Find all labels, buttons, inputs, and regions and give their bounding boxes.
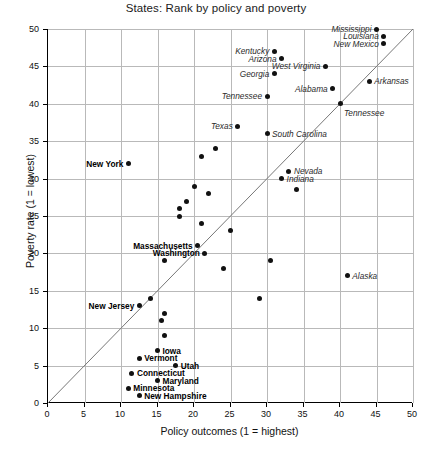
x-axis-label: Policy outcomes (1 = highest) [47,425,412,437]
data-point-new-hampshire[interactable] [137,393,142,398]
chart-figure: States: Rank by policy and poverty Missi… [0,0,432,451]
data-point-alabama[interactable] [330,86,335,91]
data-point[interactable] [228,228,233,233]
data-point-alaska[interactable] [345,273,350,278]
point-label-washington: Washington [153,249,200,257]
gridline-horizontal [48,366,413,367]
y-axis-tick [43,29,47,30]
y-axis-tick [43,104,47,105]
data-point[interactable] [221,266,226,271]
y-axis-tick [43,291,47,292]
y-axis-label: Poverty rate (1 = lowest) [24,91,36,331]
y-axis-tick [43,179,47,180]
data-point-georgia[interactable] [272,71,277,76]
data-point-south-carolina[interactable] [265,131,270,136]
data-point[interactable] [199,154,204,159]
data-point-louisiana[interactable] [381,34,386,39]
point-label-georgia: Georgia [240,70,270,78]
data-point-texas[interactable] [235,124,240,129]
y-axis-tick [43,216,47,217]
gridline-horizontal [48,179,413,180]
point-label-alaska: Alaska [352,272,377,280]
data-point-tennessee[interactable] [265,94,270,99]
point-label-texas: Texas [211,122,233,130]
point-label-vermont: Vermont [144,354,177,362]
data-point-new-york[interactable] [126,161,131,166]
y-axis-tick [43,328,47,329]
x-axis-tick [266,403,267,407]
x-axis-tick-label: 40 [334,409,344,419]
x-axis-tick-label: 25 [224,409,234,419]
data-point[interactable] [213,146,218,151]
data-point-vermont[interactable] [137,356,142,361]
x-axis-tick-label: 10 [115,409,125,419]
data-point[interactable] [177,214,182,219]
point-label-west-virginia: West Virginia [272,62,321,70]
data-point-washington[interactable] [202,251,207,256]
data-point[interactable] [199,221,204,226]
y-axis-tick [43,66,47,67]
data-point[interactable] [268,258,273,263]
x-axis-tick [303,403,304,407]
x-axis-tick-label: 45 [370,409,380,419]
data-point-minnesota[interactable] [126,386,131,391]
y-axis-tick-label: 50 [17,24,39,34]
x-axis-tick-label: 0 [44,409,49,419]
data-point-new-mexico[interactable] [381,41,386,46]
x-axis-tick [84,403,85,407]
data-point-arkansas[interactable] [367,79,372,84]
point-label-alabama: Alabama [295,85,328,93]
gridline-horizontal [48,291,413,292]
data-point-tennessee[interactable] [338,101,343,106]
x-axis-tick [120,403,121,407]
x-axis-tick [412,403,413,407]
x-axis-tick [376,403,377,407]
data-point[interactable] [159,318,164,323]
x-axis-tick [47,403,48,407]
data-point[interactable] [206,191,211,196]
point-label-arkansas: Arkansas [374,77,409,85]
gridline-horizontal [48,104,413,105]
data-point[interactable] [162,258,167,263]
data-point-new-jersey[interactable] [137,303,142,308]
y-axis-tick [43,141,47,142]
x-axis-tick-label: 20 [188,409,198,419]
data-point[interactable] [148,296,153,301]
data-point-connecticut[interactable] [129,371,134,376]
x-axis-tick-label: 15 [151,409,161,419]
data-point[interactable] [162,311,167,316]
data-point[interactable] [294,187,299,192]
y-axis-tick [43,253,47,254]
y-axis-tick-label: 5 [17,361,39,371]
y-axis-tick [43,403,47,404]
point-label-new-mexico: New Mexico [334,40,379,48]
x-axis-tick-label: 50 [407,409,417,419]
data-point-indiana[interactable] [279,176,284,181]
data-point[interactable] [257,296,262,301]
point-label-new-jersey: New Jersey [89,302,135,310]
data-point[interactable] [177,206,182,211]
data-point[interactable] [184,199,189,204]
y-axis-tick [43,366,47,367]
x-axis-tick [193,403,194,407]
point-label-new-hampshire: New Hampshire [144,391,206,399]
gridline-horizontal [48,216,413,217]
gridline-horizontal [48,66,413,67]
chart-title: States: Rank by policy and poverty [0,2,432,14]
x-axis-tick-label: 5 [81,409,86,419]
x-axis-tick-label: 35 [297,409,307,419]
data-point[interactable] [192,184,197,189]
data-point-west-virginia[interactable] [323,64,328,69]
y-axis-tick-label: 0 [17,398,39,408]
plot-area: MississippiLouisianaNew MexicoKentuckyAr… [47,29,412,403]
gridline-horizontal [48,141,413,142]
x-axis-tick [230,403,231,407]
point-label-new-york: New York [86,159,123,167]
x-axis-tick [339,403,340,407]
point-label-south-carolina: South Carolina [272,130,327,138]
data-point[interactable] [162,333,167,338]
y-axis-tick-label: 45 [17,61,39,71]
point-label-tennessee: Tennessee [344,109,384,117]
gridline-horizontal [48,328,413,329]
gridline-vertical [413,29,414,403]
